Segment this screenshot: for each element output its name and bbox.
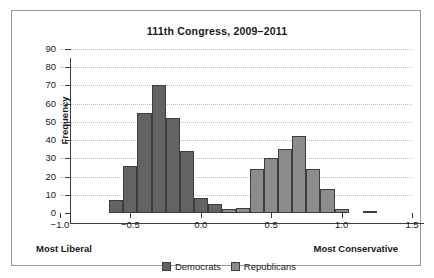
y-axis-tick-label: 10 bbox=[16, 189, 56, 200]
legend-item-republicans[interactable]: Republicans bbox=[231, 261, 296, 272]
legend-swatch-icon bbox=[162, 262, 171, 271]
legend-swatch-icon bbox=[231, 262, 240, 271]
x-axis-tick-label: −0.5 bbox=[110, 219, 150, 230]
legend-label: Democrats bbox=[175, 261, 221, 272]
histogram-bar bbox=[166, 118, 180, 213]
histogram-bar bbox=[363, 211, 377, 213]
y-axis-tick-label: 70 bbox=[16, 79, 56, 90]
x-axis-tick-label: 1.5 bbox=[392, 219, 432, 230]
x-axis-tick-label: 1.0 bbox=[322, 219, 362, 230]
histogram-bar bbox=[152, 85, 166, 213]
histogram-bar bbox=[194, 198, 208, 213]
histogram-bar bbox=[306, 169, 320, 213]
x-axis-tick bbox=[201, 213, 202, 218]
histogram-bar bbox=[208, 204, 222, 213]
x-axis-tick bbox=[412, 213, 413, 218]
x-axis-tick bbox=[271, 213, 272, 218]
histogram-bar bbox=[278, 149, 292, 213]
chart-frame: 111th Congress, 2009–2011 Frequency 0102… bbox=[11, 10, 421, 266]
plot-area bbox=[60, 49, 412, 213]
x-axis-tick-label: 0.5 bbox=[251, 219, 291, 230]
y-axis-tick-label: 40 bbox=[16, 134, 56, 145]
y-axis-tick-label: 50 bbox=[16, 116, 56, 127]
x-axis-tick-label: −1.0 bbox=[40, 219, 80, 230]
axis-annotation-right: Most Conservative bbox=[314, 243, 398, 254]
legend-item-democrats[interactable]: Democrats bbox=[162, 261, 221, 272]
y-axis-tick-label: 60 bbox=[16, 98, 56, 109]
y-axis-tick-label: 80 bbox=[16, 61, 56, 72]
x-axis-tick bbox=[342, 213, 343, 218]
histogram-bar bbox=[292, 136, 306, 213]
y-axis-tick-label: 90 bbox=[16, 43, 56, 54]
histogram-bar bbox=[250, 169, 264, 213]
histogram-bar bbox=[264, 158, 278, 213]
histogram-bar bbox=[320, 189, 334, 213]
histogram-bar bbox=[236, 208, 250, 213]
y-axis-tick-label: 30 bbox=[16, 152, 56, 163]
histogram-bar bbox=[222, 209, 236, 213]
legend-label: Republicans bbox=[244, 261, 296, 272]
chart-legend: DemocratsRepublicans bbox=[12, 261, 434, 272]
x-axis-tick bbox=[130, 213, 131, 218]
histogram-bar bbox=[123, 166, 137, 213]
x-axis-tick bbox=[60, 213, 61, 218]
histogram-bar bbox=[180, 151, 194, 213]
histogram-bar bbox=[137, 113, 151, 213]
histogram-bar bbox=[109, 200, 123, 213]
y-axis-tick-label: 0 bbox=[16, 207, 56, 218]
x-axis-tick-label: 0.0 bbox=[181, 219, 221, 230]
axis-annotation-left: Most Liberal bbox=[36, 243, 92, 254]
chart-title: 111th Congress, 2009–2011 bbox=[12, 25, 422, 37]
y-axis-tick-label: 20 bbox=[16, 171, 56, 182]
